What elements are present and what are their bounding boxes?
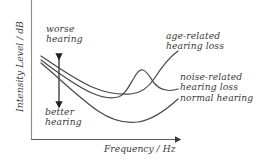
worse-hearing-line-2: hearing (46, 34, 83, 44)
hearing-loss-diagram: Intensity Level / dB Frequency / Hz wors… (0, 0, 265, 160)
y-axis-label: Intensity Level / dB (14, 11, 25, 123)
curve-label-age-related-line-2: hearing loss (166, 41, 224, 51)
x-axis-label: Frequency / Hz (104, 143, 175, 154)
better-hearing-annotation: better hearing (45, 107, 82, 128)
curve-label-noise-related: noise-related hearing loss (180, 72, 242, 93)
curve-label-normal-hearing-line-1: normal hearing (180, 93, 253, 103)
better-hearing-line-2: hearing (45, 117, 82, 127)
curve-label-normal-hearing: normal hearing (180, 93, 253, 103)
curve-label-age-related: age-related hearing loss (166, 31, 224, 52)
curve-age-related-hearing-loss (41, 51, 178, 94)
worse-hearing-annotation: worse hearing (46, 24, 83, 45)
